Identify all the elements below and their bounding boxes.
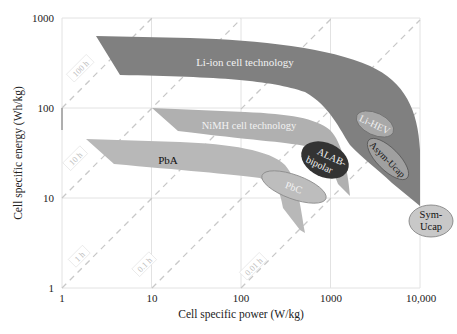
x-axis-ticks: 1 10 100 1000 10,000 xyxy=(59,292,436,304)
ragone-chart: 100 h 10 h 1 h 0.1 h 0.01 h PbC ALAB- bi… xyxy=(0,0,457,334)
y-axis-ticks: 1000 100 10 1 xyxy=(32,12,55,294)
label-sym-1: Sym- xyxy=(420,209,443,220)
x-tick-1: 1 xyxy=(59,292,65,304)
label-nimh: NiMH cell technology xyxy=(202,120,297,131)
x-tick-10000: 10,000 xyxy=(406,292,437,304)
x-tick-1000: 1000 xyxy=(320,292,343,304)
x-axis-title: Cell specific power (W/kg) xyxy=(178,308,304,321)
label-pba: PbA xyxy=(158,154,178,166)
y-tick-1000: 1000 xyxy=(32,12,55,24)
label-li-ion: Li-ion cell technology xyxy=(196,56,294,68)
y-tick-1: 1 xyxy=(49,282,55,294)
region-sym-ucap: Sym- Ucap xyxy=(409,205,453,237)
y-axis-title: Cell specific energy (Wh/kg) xyxy=(12,86,25,220)
y-tick-10: 10 xyxy=(43,192,55,204)
label-sym-2: Ucap xyxy=(420,221,442,232)
x-tick-100: 100 xyxy=(233,292,250,304)
y-tick-100: 100 xyxy=(38,102,55,114)
x-tick-10: 10 xyxy=(147,292,159,304)
